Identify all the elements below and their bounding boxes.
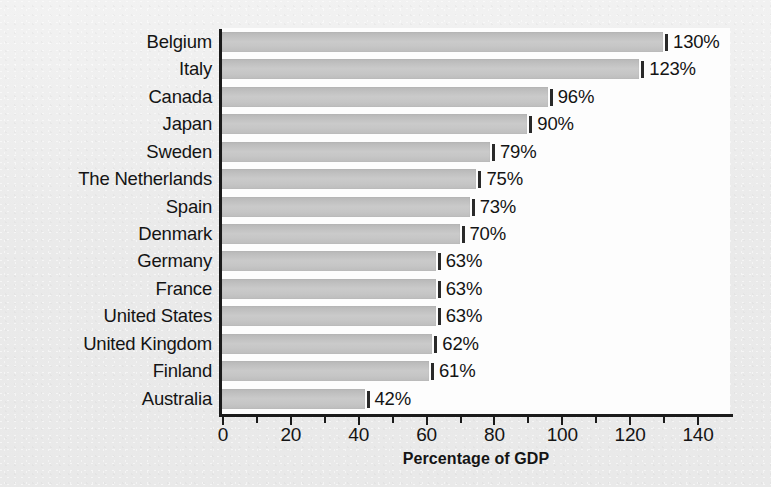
bar-value-label: 62%: [442, 333, 478, 354]
bar-end-cap: [438, 308, 441, 325]
bar: [222, 114, 527, 134]
bar-value-label: 63%: [446, 250, 482, 271]
bar-row: United Kingdom62%: [0, 333, 771, 360]
bar-value-label: 42%: [375, 388, 411, 409]
category-label: Spain: [7, 196, 212, 217]
x-tick-label: 100: [532, 424, 592, 446]
bar-track: 96%: [222, 87, 730, 107]
bar-track: 70%: [222, 224, 730, 244]
bar: [222, 306, 436, 326]
bar-value-label: 63%: [446, 278, 482, 299]
bar-track: 62%: [222, 334, 730, 354]
bar-row: Australia42%: [0, 388, 771, 415]
category-label: The Netherlands: [7, 168, 212, 189]
bar-row: Japan90%: [0, 113, 771, 140]
bar-track: 90%: [222, 114, 730, 134]
bar-value-label: 90%: [537, 113, 573, 134]
bar-track: 42%: [222, 389, 730, 409]
bar: [222, 389, 365, 409]
category-label: Denmark: [7, 223, 212, 244]
x-tick-minor: [460, 417, 462, 423]
bar-track: 63%: [222, 306, 730, 326]
bar-end-cap: [462, 226, 465, 243]
bar-track: 130%: [222, 32, 730, 52]
x-tick-minor: [392, 417, 394, 423]
bar-end-cap: [665, 34, 668, 51]
bar-end-cap: [529, 116, 532, 133]
x-tick-label: 80: [464, 424, 524, 446]
bar-rows: Belgium130%Italy123%Canada96%Japan90%Swe…: [0, 31, 771, 415]
bar-track: 75%: [222, 169, 730, 189]
bar-end-cap: [431, 363, 434, 380]
category-label: Italy: [7, 58, 212, 79]
bar-value-label: 79%: [500, 141, 536, 162]
category-label: Sweden: [7, 141, 212, 162]
bar-track: 63%: [222, 251, 730, 271]
bar-end-cap: [434, 336, 437, 353]
bar-end-cap: [492, 144, 495, 161]
bar-track: 61%: [222, 361, 730, 381]
category-label: Australia: [7, 388, 212, 409]
category-label: Finland: [7, 360, 212, 381]
bar-end-cap: [367, 391, 370, 408]
x-tick-minor: [663, 417, 665, 423]
x-tick-label: 40: [329, 424, 389, 446]
bar: [222, 224, 460, 244]
category-label: France: [7, 278, 212, 299]
bar-end-cap: [472, 199, 475, 216]
x-tick-minor: [595, 417, 597, 423]
category-label: Germany: [7, 250, 212, 271]
bar-track: 123%: [222, 59, 730, 79]
bar-value-label: 63%: [446, 305, 482, 326]
x-tick-label: 60: [397, 424, 457, 446]
x-tick-label: 140: [668, 424, 728, 446]
bar: [222, 142, 490, 162]
x-tick-minor: [256, 417, 258, 423]
x-tick-label: 120: [600, 424, 660, 446]
bar: [222, 361, 429, 381]
bar-end-cap: [478, 171, 481, 188]
bar: [222, 197, 470, 217]
x-tick-minor: [324, 417, 326, 423]
bar: [222, 279, 436, 299]
bar-value-label: 61%: [439, 360, 475, 381]
bar-row: United States63%: [0, 305, 771, 332]
bar-row: Germany63%: [0, 250, 771, 277]
x-tick-label: 20: [261, 424, 321, 446]
category-label: United States: [7, 305, 212, 326]
bar-value-label: 75%: [486, 168, 522, 189]
category-label: Canada: [7, 86, 212, 107]
bar: [222, 59, 639, 79]
bar: [222, 87, 548, 107]
x-tick-minor: [527, 417, 529, 423]
bar-track: 73%: [222, 197, 730, 217]
bar: [222, 251, 436, 271]
bar-value-label: 70%: [470, 223, 506, 244]
bar-row: Belgium130%: [0, 31, 771, 58]
bar-end-cap: [438, 253, 441, 270]
category-label: United Kingdom: [7, 333, 212, 354]
bar-value-label: 96%: [558, 86, 594, 107]
bar-row: Finland61%: [0, 360, 771, 387]
bar-value-label: 123%: [649, 58, 696, 79]
bar-row: Denmark70%: [0, 223, 771, 250]
bar-row: France63%: [0, 278, 771, 305]
x-axis-title: Percentage of GDP: [222, 450, 730, 468]
bar: [222, 169, 476, 189]
bar: [222, 334, 432, 354]
bar-end-cap: [550, 89, 553, 106]
bar-track: 79%: [222, 142, 730, 162]
bar-row: The Netherlands75%: [0, 168, 771, 195]
bar: [222, 32, 663, 52]
bar-end-cap: [438, 281, 441, 298]
bar-row: Italy123%: [0, 58, 771, 85]
bar-row: Sweden79%: [0, 141, 771, 168]
bar-value-label: 130%: [673, 31, 720, 52]
x-tick-label: 0: [193, 424, 253, 446]
bar-row: Spain73%: [0, 196, 771, 223]
chart-figure: Belgium130%Italy123%Canada96%Japan90%Swe…: [0, 0, 771, 487]
bar-end-cap: [641, 61, 644, 78]
bar-row: Canada96%: [0, 86, 771, 113]
category-label: Japan: [7, 113, 212, 134]
bar-track: 63%: [222, 279, 730, 299]
